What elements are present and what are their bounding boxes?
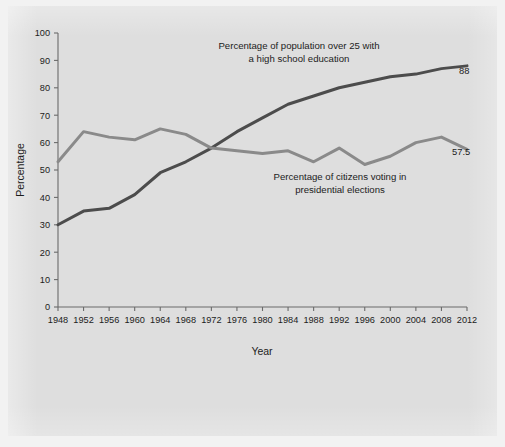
y-tick-label: 20 — [40, 248, 50, 258]
y-axis-ticks: 0102030405060708090100 — [35, 28, 58, 312]
x-tick-label: 2012 — [457, 315, 477, 325]
y-tick-label: 40 — [40, 193, 50, 203]
x-tick-label: 2008 — [431, 315, 451, 325]
y-tick-label: 50 — [40, 165, 50, 175]
chart-page: 0102030405060708090100 19481952195619601… — [0, 0, 505, 447]
x-tick-label: 1980 — [252, 315, 272, 325]
y-tick-label: 80 — [40, 83, 50, 93]
y-tick-label: 90 — [40, 56, 50, 66]
voting-annotation-line1: Percentage of citizens voting in — [274, 171, 407, 182]
x-tick-label: 1972 — [201, 315, 221, 325]
y-axis-title: Percentage — [14, 143, 26, 197]
x-tick-label: 1976 — [227, 315, 247, 325]
series-line-voting — [58, 129, 467, 165]
x-tick-label: 1960 — [124, 315, 144, 325]
y-tick-label: 60 — [40, 138, 50, 148]
x-tick-label: 1956 — [99, 315, 119, 325]
x-axis-ticks: 1948195219561960196419681972197619801984… — [48, 307, 477, 325]
y-tick-label: 10 — [40, 275, 50, 285]
x-tick-label: 1964 — [150, 315, 170, 325]
x-tick-label: 1992 — [329, 315, 349, 325]
education-annotation-line2: a high school education — [249, 53, 350, 64]
x-tick-label: 1968 — [176, 315, 196, 325]
y-tick-label: 70 — [40, 111, 50, 121]
x-tick-label: 1984 — [278, 315, 298, 325]
x-tick-label: 1996 — [355, 315, 375, 325]
x-tick-label: 2004 — [406, 315, 426, 325]
x-tick-label: 1952 — [73, 315, 93, 325]
x-axis-title: Year — [251, 345, 273, 357]
x-tick-label: 2000 — [380, 315, 400, 325]
series-line-education — [58, 66, 467, 225]
voting-end-value-label: 57.5 — [452, 146, 470, 157]
education-annotation-line1: Percentage of population over 25 with — [218, 40, 379, 51]
education-end-value-label: 88 — [459, 65, 469, 76]
x-tick-label: 1948 — [48, 315, 68, 325]
voting-annotation-line2: presidential elections — [295, 184, 385, 195]
y-tick-label: 30 — [40, 220, 50, 230]
y-tick-label: 0 — [45, 302, 50, 312]
line-chart-svg: 0102030405060708090100 19481952195619601… — [0, 0, 505, 447]
y-tick-label: 100 — [35, 28, 50, 38]
data-series-group — [58, 66, 467, 225]
chart-figure: 0102030405060708090100 19481952195619601… — [0, 0, 505, 447]
x-tick-label: 1988 — [303, 315, 323, 325]
